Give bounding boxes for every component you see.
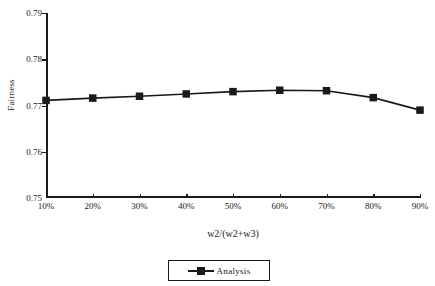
y-axis-tick-mark (42, 152, 47, 153)
x-axis-tick-label: 50% (213, 200, 253, 212)
x-axis-minor-tick-mark (256, 196, 257, 199)
legend-item-analysis: Analysis (188, 266, 251, 276)
y-axis-tick-label: 0.77 (16, 101, 42, 111)
data-point-marker (136, 93, 144, 101)
x-axis-tick-label: 70% (307, 200, 347, 212)
x-axis-tick-mark (46, 194, 47, 198)
y-axis-tick-label: 0.78 (16, 54, 42, 64)
y-axis-tick-labels: 0.790.780.770.760.75 (14, 0, 42, 286)
data-point-marker (323, 87, 331, 95)
x-axis-minor-tick-mark (210, 196, 211, 199)
data-point-marker (89, 94, 97, 102)
x-axis-minor-tick-mark (397, 196, 398, 199)
data-point-marker (276, 86, 284, 94)
y-axis-tick-label: 0.76 (16, 147, 42, 157)
x-axis-tick-mark (327, 194, 328, 198)
x-axis-tick-labels: 10%20%30%40%50%60%70%80%90% (46, 200, 420, 216)
x-axis-tick-mark (420, 194, 421, 198)
y-axis-tick-mark (42, 13, 47, 14)
x-axis-minor-tick-mark (303, 196, 304, 199)
x-axis-tick-mark (373, 194, 374, 198)
x-axis-tick-label: 60% (260, 200, 300, 212)
x-axis-minor-tick-mark (116, 196, 117, 199)
plot-area (46, 13, 420, 198)
x-axis-title: w2/(w2+w3) (46, 228, 420, 239)
x-axis-tick-mark (140, 194, 141, 198)
x-axis-tick-label: 40% (166, 200, 206, 212)
x-axis-tick-mark (233, 194, 234, 198)
x-axis-tick-mark (93, 194, 94, 198)
x-axis-tick-mark (280, 194, 281, 198)
y-axis-tick-mark (42, 59, 47, 60)
x-axis-tick-label: 30% (120, 200, 160, 212)
data-point-marker (416, 106, 424, 114)
x-axis-minor-tick-mark (350, 196, 351, 199)
legend-marker-icon (188, 266, 214, 275)
x-axis-tick-label: 90% (400, 200, 435, 212)
x-axis-tick-mark (186, 194, 187, 198)
chart-legend: Analysis (168, 260, 270, 281)
x-axis-minor-tick-mark (163, 196, 164, 199)
x-axis-tick-label: 80% (353, 200, 393, 212)
data-point-marker (370, 94, 378, 102)
y-axis-tick-label: 0.79 (16, 8, 42, 18)
y-axis-tick-mark (42, 106, 47, 107)
series-analysis (46, 13, 420, 198)
data-point-marker (42, 97, 50, 105)
x-axis-tick-label: 20% (73, 200, 113, 212)
data-point-marker (229, 88, 237, 96)
legend-item-label: Analysis (217, 266, 251, 276)
x-axis-minor-tick-mark (69, 196, 70, 199)
fairness-line-chart: Fairness 0.790.780.770.760.75 10%20%30%4… (0, 0, 435, 286)
data-point-marker (183, 90, 191, 98)
x-axis-tick-label: 10% (26, 200, 66, 212)
